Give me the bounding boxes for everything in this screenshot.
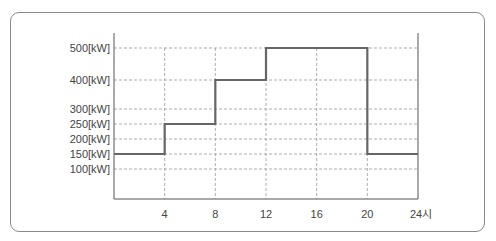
x-tick-label: 4 [162,208,168,220]
y-tick-label: 250[kW] [70,118,110,130]
x-axis-labels: 4812162024시 [162,208,433,220]
y-tick-label: 100[kW] [70,163,110,175]
y-tick-label: 300[kW] [70,103,110,115]
y-tick-label: 500[kW] [70,42,110,54]
x-tick-label: 16 [311,208,323,220]
y-axis-labels: 100[kW]150[kW]200[kW]250[kW]300[kW]400[k… [70,42,110,175]
y-tick-label: 400[kW] [70,74,110,86]
x-tick-label: 20 [361,208,373,220]
y-tick-label: 150[kW] [70,148,110,160]
x-tick-label: 8 [212,208,218,220]
x-tick-label: 12 [260,208,272,220]
load-step-chart: 100[kW]150[kW]200[kW]250[kW]300[kW]400[k… [0,0,496,241]
y-tick-label: 200[kW] [70,133,110,145]
x-tick-label: 24시 [410,208,432,220]
